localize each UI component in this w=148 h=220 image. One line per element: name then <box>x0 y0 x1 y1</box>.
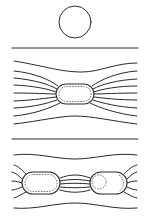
panel-top <box>59 6 91 38</box>
cell-left-capsule <box>22 172 60 194</box>
panel-bottom <box>12 154 137 208</box>
panel-middle <box>14 61 137 124</box>
cell-capsule <box>56 84 94 104</box>
cell-right-capsule <box>90 172 127 194</box>
isolated-cell-circle <box>59 6 91 38</box>
field-line-diagram <box>0 0 148 220</box>
